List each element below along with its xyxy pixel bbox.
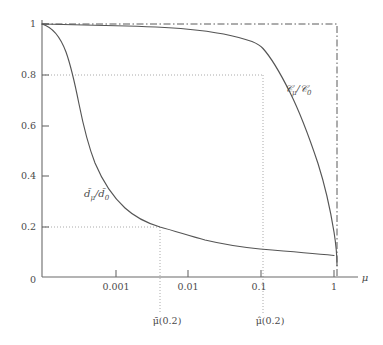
marker-label-mu-bar: μ̄(0.2) (153, 315, 182, 326)
marker-label-mu-hat: μ̂(0.2) (256, 315, 285, 326)
chart-svg: 1 0.8 0.6 0.4 0.2 0 0.001 0.01 0.1 1 μ 𝒞… (0, 0, 383, 345)
y-tick-label-0.4: 0.4 (21, 170, 36, 181)
x-tick-label-0.001: 0.001 (102, 281, 129, 292)
y-tick-label-1: 1 (30, 18, 36, 29)
chart-figure: 1 0.8 0.6 0.4 0.2 0 0.001 0.01 0.1 1 μ 𝒞… (0, 0, 383, 345)
y-tick-label-0.2: 0.2 (21, 221, 36, 232)
origin-label: 0 (30, 274, 36, 285)
x-axis-label: μ (362, 272, 369, 283)
y-tick-label-0.8: 0.8 (21, 69, 36, 80)
x-tick-label-0.01: 0.01 (177, 281, 198, 292)
y-tick-label-0.6: 0.6 (21, 120, 36, 131)
x-tick-label-1: 1 (331, 281, 337, 292)
chart-background (0, 0, 383, 345)
x-tick-label-0.1: 0.1 (251, 281, 266, 292)
